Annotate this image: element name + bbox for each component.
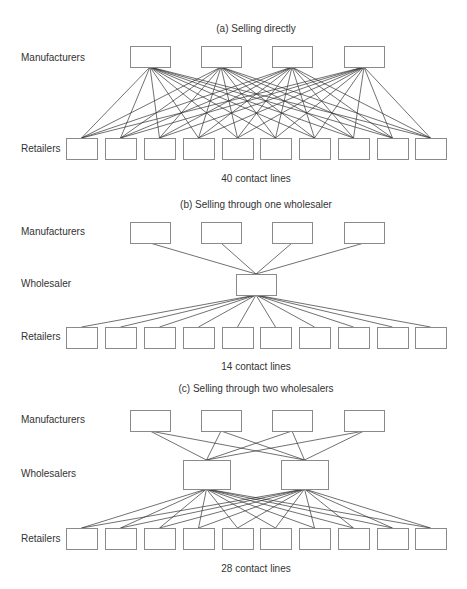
retailer-box <box>145 328 176 349</box>
panel-a-manufacturers-label: Manufacturers <box>21 52 85 64</box>
retailer-box <box>378 529 409 550</box>
retailer-box <box>261 328 292 349</box>
contact-line <box>150 67 238 138</box>
wholesaler-box <box>184 461 231 490</box>
retailer-box <box>416 529 447 550</box>
contact-line <box>82 67 151 138</box>
retailer-box <box>145 139 176 160</box>
manufacturer-box <box>273 223 313 244</box>
retailer-box <box>339 328 370 349</box>
contact-line <box>305 489 431 528</box>
manufacturer-box <box>345 47 385 68</box>
contact-line <box>256 295 393 327</box>
panel-b-wholesaler-label: Wholesaler <box>21 278 71 290</box>
wholesaler-box <box>282 461 329 490</box>
contact-line <box>199 489 305 528</box>
contact-line <box>292 67 431 138</box>
panel-b-caption: 14 contact lines <box>221 361 291 373</box>
panel-c-wholesalers-label: Wholesalers <box>21 468 76 480</box>
retailer-box <box>184 328 215 349</box>
retailer-box <box>300 139 331 160</box>
panel-c-caption: 28 contact lines <box>221 563 291 575</box>
panel-b <box>67 223 447 349</box>
panel-a-title: (a) Selling directly <box>216 23 295 35</box>
retailer-box <box>300 529 331 550</box>
manufacturer-box <box>202 411 242 432</box>
contact-line <box>354 67 365 138</box>
contact-line <box>150 431 207 460</box>
manufacturer-box <box>273 47 313 68</box>
distribution-channel-diagram <box>0 0 467 589</box>
retailer-box <box>339 139 370 160</box>
manufacturer-box <box>345 411 385 432</box>
contact-line <box>121 489 305 528</box>
panel-b-retailers-label: Retailers <box>21 331 60 343</box>
contact-line <box>207 431 365 460</box>
manufacturer-box <box>202 47 242 68</box>
retailer-box <box>184 139 215 160</box>
retailer-box <box>378 139 409 160</box>
contact-line <box>150 243 256 274</box>
retailer-box <box>67 139 98 160</box>
contact-line <box>207 431 293 460</box>
retailer-box <box>106 529 137 550</box>
contact-line <box>207 489 393 528</box>
contact-line <box>364 67 431 138</box>
contact-line <box>150 431 305 460</box>
retailer-box <box>223 139 254 160</box>
contact-line <box>256 295 276 327</box>
contact-line <box>199 67 222 138</box>
panel-c-manufacturers-label: Manufacturers <box>21 414 85 426</box>
contact-line <box>256 295 431 327</box>
manufacturer-box <box>345 223 385 244</box>
manufacturer-box <box>131 47 171 68</box>
contact-line <box>221 431 305 460</box>
panel-c-title: (c) Selling through two wholesalers <box>178 383 333 395</box>
panel-b-manufacturers-label: Manufacturers <box>21 226 85 238</box>
contact-line <box>82 489 207 528</box>
retailer-box <box>261 529 292 550</box>
contact-line <box>305 489 315 528</box>
contact-line <box>305 431 365 460</box>
retailer-box <box>67 328 98 349</box>
retailer-box <box>184 529 215 550</box>
contact-line <box>276 67 365 138</box>
retailer-box <box>261 139 292 160</box>
contact-line <box>292 431 305 460</box>
retailer-box <box>106 139 137 160</box>
contact-line <box>364 67 393 138</box>
contact-line <box>292 67 315 138</box>
contact-line <box>256 243 364 274</box>
panel-a <box>67 47 447 160</box>
retailer-box <box>416 139 447 160</box>
contact-line <box>256 243 292 274</box>
retailer-box <box>339 529 370 550</box>
contact-line <box>160 489 305 528</box>
contact-line <box>121 295 257 327</box>
panel-b-title: (b) Selling through one wholesaler <box>180 199 332 211</box>
panel-c-retailers-label: Retailers <box>21 533 60 545</box>
manufacturer-box <box>202 223 242 244</box>
panel-a-caption: 40 contact lines <box>221 173 291 185</box>
retailer-box <box>145 529 176 550</box>
panel-a-retailers-label: Retailers <box>21 143 60 155</box>
retailer-box <box>223 529 254 550</box>
retailer-box <box>416 328 447 349</box>
retailer-box <box>106 328 137 349</box>
retailer-box <box>67 529 98 550</box>
panel-c <box>67 411 447 550</box>
manufacturer-box <box>131 411 171 432</box>
retailer-box <box>378 328 409 349</box>
retailer-box <box>300 328 331 349</box>
retailer-box <box>223 328 254 349</box>
manufacturer-box <box>273 411 313 432</box>
contact-line <box>221 243 256 274</box>
manufacturer-box <box>131 223 171 244</box>
contact-line <box>82 295 257 327</box>
contact-line <box>256 295 354 327</box>
contact-line <box>305 489 354 528</box>
wholesaler-box <box>237 275 277 296</box>
